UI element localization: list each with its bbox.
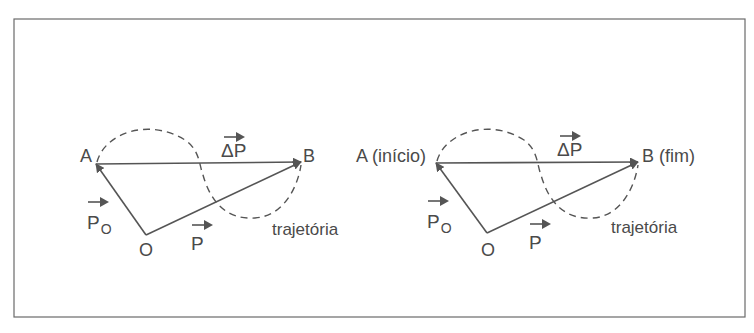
vector-symbol-arrow-icon-head — [440, 196, 449, 206]
vector-label-displacement: ΔP — [557, 139, 582, 160]
vector-symbol-arrow-icon-head — [542, 219, 551, 229]
point-label-a: A (início) — [356, 146, 426, 166]
point-label-b: B — [303, 146, 315, 166]
vector-label-position-initial: PO — [87, 212, 112, 237]
vector-symbol-arrow-icon-head — [100, 197, 109, 207]
vector-label-position-initial: PO — [427, 211, 452, 236]
vector-displacement — [96, 162, 301, 164]
vector-label-position-final: P — [191, 233, 204, 254]
figure-canvas: POPΔPABOtrajetóriaPOPΔPA (início)B (fim)… — [0, 0, 754, 333]
vector-diagram: POPΔPABOtrajetóriaPOPΔPA (início)B (fim)… — [0, 0, 754, 333]
point-label-o: O — [481, 240, 495, 260]
point-label-b: B (fim) — [642, 146, 695, 166]
vector-subscript: O — [441, 220, 452, 236]
vector-label-displacement: ΔP — [221, 140, 246, 161]
trajectory-label: trajetória — [272, 220, 339, 239]
vector-label-position-final: P — [529, 232, 542, 253]
vector-symbol-arrow-icon-head — [204, 220, 213, 230]
point-label-a: A — [80, 146, 92, 166]
trajectory-label: trajetória — [611, 218, 678, 237]
trajectory-curve — [97, 129, 301, 218]
vector-subscript: O — [101, 221, 112, 237]
panel-right: POPΔPA (início)B (fim)Otrajetória — [356, 129, 695, 260]
point-label-o: O — [139, 240, 153, 260]
vector-displacement — [436, 162, 638, 163]
panel-left: POPΔPABOtrajetória — [80, 129, 339, 260]
figure-frame — [14, 19, 745, 317]
